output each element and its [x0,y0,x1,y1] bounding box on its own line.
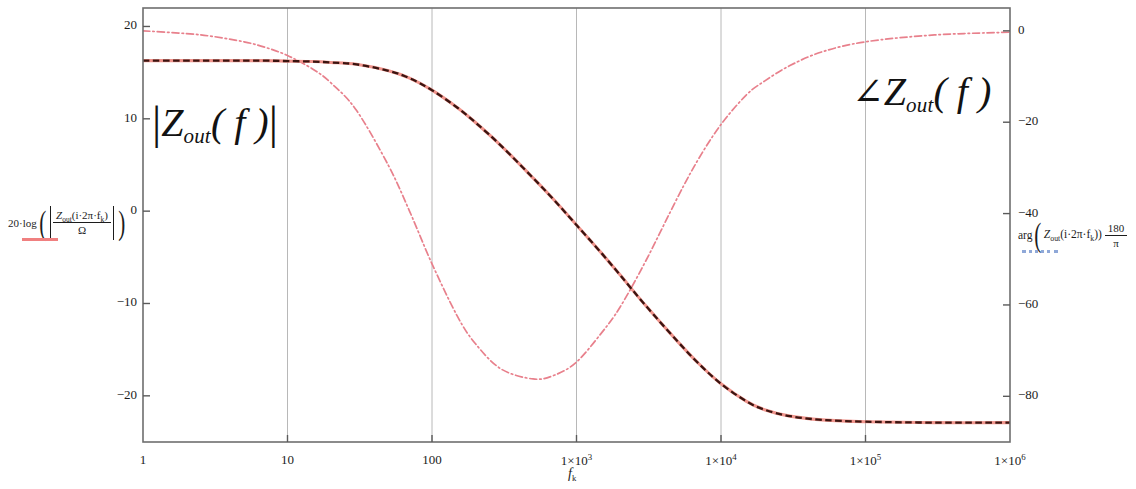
left-label-fraction: Zout(i·2π·fk) Ω [53,209,111,236]
x-tick-label: 1 [103,452,183,468]
x-tick-label: 1×105 [826,452,906,469]
x-tick-exponent: 3 [588,452,592,462]
x-tick-label: 100 [392,452,472,468]
left-label-num-arg: (i·2π·f [72,209,101,221]
magnitude-annotation-symbol: Z [161,100,183,145]
phase-annotation-symbol: Z [884,69,906,114]
right-tick-label: −20 [1018,113,1070,129]
left-tick-label: −10 [85,294,137,310]
right-tick-label: −40 [1018,205,1070,221]
left-label-num-arg-close: ) [104,209,108,221]
phase-annotation: ∠Zout( f ) [852,72,991,112]
left-label-abs-close [113,206,114,240]
angle-icon: ∠ [852,71,884,113]
phase-annotation-arg: ( f ) [934,69,992,114]
magnitude-annotation-subscript: out [183,124,210,148]
x-tick-label: 1×104 [681,452,761,469]
magnitude-annotation-bar-close: | [269,97,278,148]
x-axis-title-subscript: k [572,473,576,483]
right-label-paren-open: ( [1035,223,1042,247]
x-axis-title: fk [568,466,576,482]
right-label-frac-num: 180 [1105,222,1128,235]
magnitude-annotation: |Zout( f )| [152,98,278,144]
phase-legend-swatch [1022,250,1058,253]
x-tick-mantissa: 1×10 [850,453,877,468]
left-label-paren-open: ( [39,211,46,235]
right-tick-label: −60 [1018,296,1070,312]
left-axis-label-expression: 20·log( Zout(i·2π·fk) Ω ) [8,206,127,240]
left-label-numerator: Zout(i·2π·fk) [53,209,111,222]
left-tick-label: 10 [85,110,137,126]
x-tick-mantissa: 1×10 [994,453,1021,468]
right-label-arg-subscript: k [1090,234,1094,243]
x-tick-exponent: 5 [877,452,881,462]
right-label-frac-den: π [1105,235,1128,249]
x-tick-exponent: 6 [1021,452,1025,462]
right-tick-label: 0 [1018,22,1070,38]
magnitude-legend-swatch [22,238,58,241]
right-label-func: arg [1018,230,1032,242]
left-label-lead: 20·log [8,218,37,229]
magnitude-annotation-arg: ( f ) [211,100,269,145]
right-axis-label-expression: arg(Zout(i·2π·fk)) 180 π [1018,222,1127,249]
right-label-arg-close: )) [1094,228,1102,240]
left-label-num-arg-subscript: k [101,215,105,224]
x-tick-mantissa: 1×10 [705,453,732,468]
right-tick-label: −80 [1018,387,1070,403]
bode-plot-figure: 20100−10−20 0−20−40−60−80 1101001×1031×1… [0,0,1136,489]
right-label-fraction: 180 π [1105,222,1128,249]
x-tick-label: 1×103 [537,452,617,469]
x-tick-label: 10 [248,452,328,468]
left-label-abs-open [50,206,51,240]
right-label-arg-open: (i·2π·f [1060,228,1090,240]
left-label-paren-close: ) [118,211,125,235]
left-label-num-subscript: out [62,215,72,224]
left-label-denominator: Ω [53,222,111,236]
magnitude-annotation-bar-open: | [152,97,161,148]
left-tick-label: −20 [85,387,137,403]
x-tick-label: 1×106 [970,452,1050,469]
right-label-subscript: out [1050,234,1060,243]
left-tick-label: 20 [85,17,137,33]
x-tick-exponent: 4 [732,452,736,462]
phase-annotation-subscript: out [906,93,933,117]
